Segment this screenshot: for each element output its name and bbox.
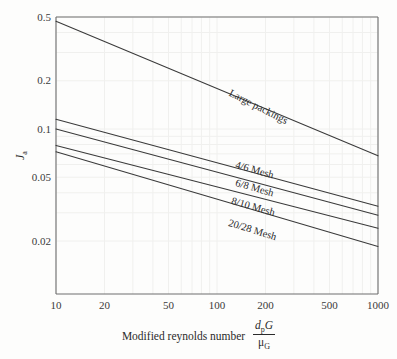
y-tick-label-0p02: 0.02 (32, 236, 51, 247)
x-axis-title-fraction: dpG μG (253, 319, 275, 352)
x-axis-title-text: Modified reynolds number (122, 330, 245, 342)
x-tick-label-200: 200 (245, 300, 285, 311)
chart-figure: 0.50.20.10.050.02 1020501002005001000 La… (0, 0, 397, 359)
fraction-denominator: μG (253, 335, 275, 351)
x-tick-label-100: 100 (197, 300, 237, 311)
fraction-numerator: dpG (253, 319, 275, 335)
x-axis-title: Modified reynolds number dpG μG (0, 320, 397, 353)
x-tick-label-10: 10 (36, 300, 76, 311)
gridlines-group (56, 17, 378, 294)
y-tick-label-0p2: 0.2 (37, 75, 51, 86)
y-tick-label-0p05: 0.05 (32, 172, 51, 183)
x-tick-label-50: 50 (149, 300, 189, 311)
x-tick-label-20: 20 (84, 300, 124, 311)
y-tick-label-0p1: 0.1 (37, 124, 51, 135)
x-tick-label-500: 500 (310, 300, 350, 311)
x-tick-label-1000: 1000 (358, 300, 397, 311)
y-axis-title: Ja (14, 151, 29, 160)
y-tick-label-0p5: 0.5 (37, 12, 51, 23)
